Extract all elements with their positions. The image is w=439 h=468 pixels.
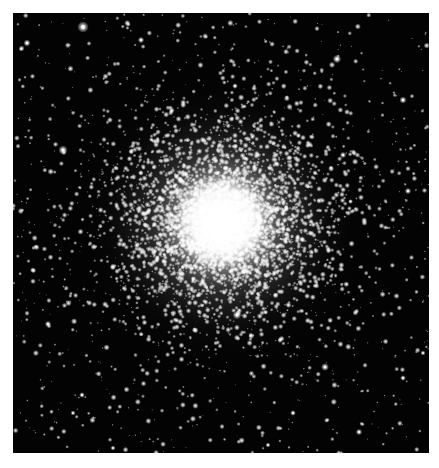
- starfield-image: [13, 13, 429, 453]
- page-header-remnant: [360, 0, 430, 6]
- cluster-photograph: globular star cluster: [13, 13, 429, 453]
